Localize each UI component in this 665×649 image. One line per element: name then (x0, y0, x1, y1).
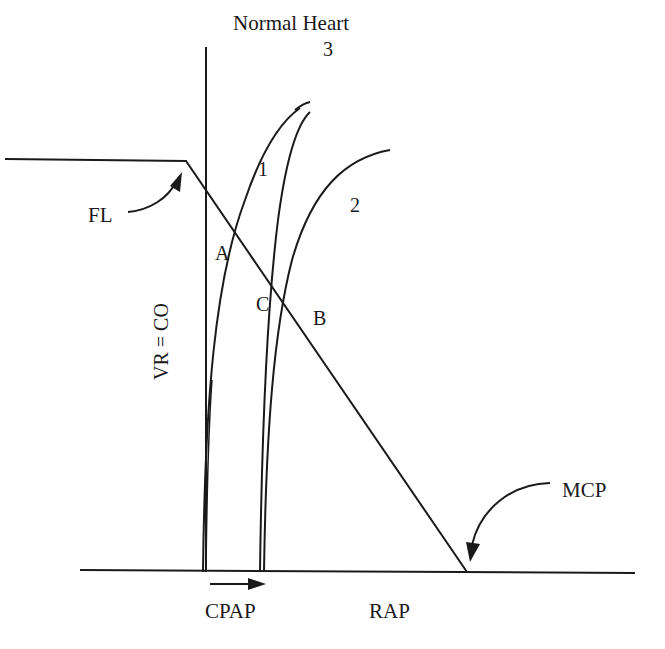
curve-1-label: 1 (258, 158, 268, 180)
diagram-title: Normal Heart (233, 11, 349, 35)
x-axis (80, 570, 635, 573)
fl-arrow-shaft (128, 182, 176, 212)
cardiac-function-curve-3-tip (295, 102, 310, 110)
cardiac-function-curve-3 (260, 112, 310, 572)
fl-label: FL (88, 203, 113, 227)
x-axis-label: RAP (369, 599, 410, 623)
curve-3-label: 3 (323, 38, 333, 60)
cardiac-function-curve-2 (264, 150, 390, 572)
mcp-label: MCP (562, 478, 606, 502)
y-axis-label: VR = CO (150, 303, 172, 380)
cpap-label: CPAP (205, 599, 256, 623)
cpap-arrowhead-icon (248, 578, 266, 590)
curve-2-label: 2 (350, 194, 360, 216)
point-a-label: A (215, 242, 230, 264)
point-b-label: B (313, 307, 326, 329)
point-c-label: C (256, 293, 269, 315)
mcp-arrow-shaft (472, 483, 550, 545)
mcp-arrowhead-icon (466, 542, 480, 562)
venous-return-cardiac-function-diagram: Normal Heart 3 1 2 FL A C B VR = CO MCP … (0, 0, 665, 649)
venous-return-curve (5, 159, 467, 572)
